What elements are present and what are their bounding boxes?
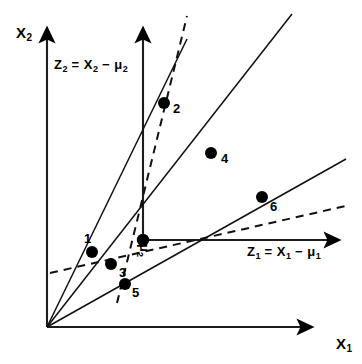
diagram-svg xyxy=(0,0,362,364)
x1-axis-label: X1 xyxy=(336,336,352,354)
ray-steep-through-point-2 xyxy=(47,39,187,327)
data-point-label-6: 6 xyxy=(270,200,277,213)
data-point-2[interactable] xyxy=(158,97,170,109)
figure-canvas: X2 X1 Z2 = X2 − μ2 Z1 = X1 − μ1 μ2 1 2 3… xyxy=(0,0,362,364)
data-point-3[interactable] xyxy=(105,258,117,270)
x2-axis-label: X2 xyxy=(16,25,32,43)
ray-shallow-through-point-6 xyxy=(47,159,346,327)
data-point-4[interactable] xyxy=(205,147,217,159)
data-points-group xyxy=(86,97,268,290)
z1-equation-label: Z1 = X1 − μ1 xyxy=(247,245,321,261)
data-point-1[interactable] xyxy=(86,246,98,258)
data-point-label-2: 2 xyxy=(173,102,180,115)
z2-equation-label: Z2 = X2 − μ2 xyxy=(54,58,128,74)
data-point-label-3: 3 xyxy=(119,266,126,279)
x1-axis-subscript: 1 xyxy=(346,343,352,354)
data-point-label-5: 5 xyxy=(132,286,139,299)
data-point-6[interactable] xyxy=(256,191,268,203)
mu-vector-label: μ2 xyxy=(135,244,151,257)
x2-axis-subscript: 2 xyxy=(26,32,32,43)
z-axes-group xyxy=(143,28,339,240)
data-point-label-4: 4 xyxy=(221,152,228,165)
data-point-label-1: 1 xyxy=(84,232,91,245)
